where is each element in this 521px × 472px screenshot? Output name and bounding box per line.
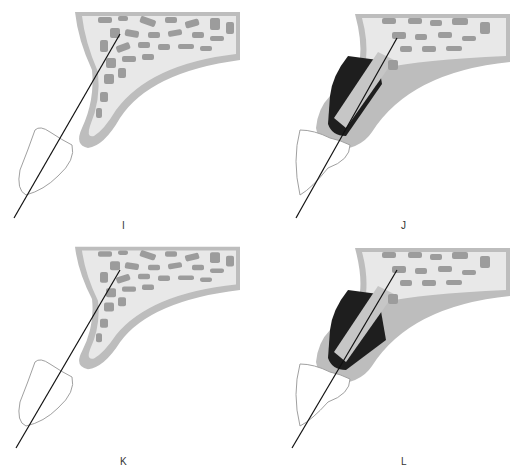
tooth-outline — [19, 128, 73, 195]
implant-diagram — [260, 0, 521, 236]
panel-label: I — [122, 220, 125, 231]
tooth-outline — [19, 360, 73, 426]
panel-label: K — [120, 456, 127, 467]
panel-i: I — [0, 0, 260, 236]
panel-k: K — [0, 236, 260, 472]
panel-j: J — [260, 0, 520, 236]
implant-diagram — [260, 236, 521, 472]
panel-l: L — [260, 236, 520, 472]
panel-label: L — [401, 456, 407, 467]
bone-diagram — [0, 236, 260, 472]
panel-label: J — [401, 220, 406, 231]
bone-diagram — [0, 0, 260, 236]
